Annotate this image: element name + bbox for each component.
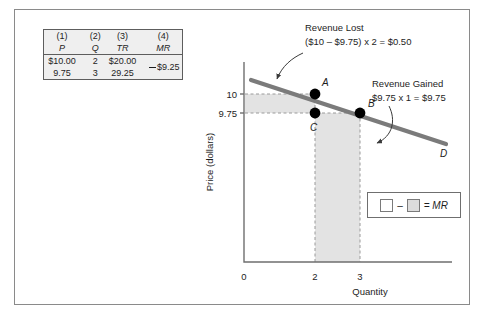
x-tick-label-2: 2 <box>312 271 317 282</box>
y-tick-label-10: 10 <box>226 89 237 100</box>
revenue-gained-title: Revenue Gained <box>372 78 443 89</box>
legend-operator: – <box>397 199 403 212</box>
x-tick-label-0: 0 <box>241 271 246 282</box>
revenue-lost-arrow-icon <box>277 53 303 79</box>
data-point-A <box>310 89 321 100</box>
figure-container: (1) (2) (3) (4) P Q TR MR $10.00 2 $20.0… <box>0 0 486 318</box>
revenue-lost-formula: ($10 – $9.75) x 2 = $0.50 <box>305 36 411 47</box>
data-point-C <box>310 108 321 119</box>
chart-legend: – = MR <box>367 192 461 218</box>
x-axis-title: Quantity <box>352 286 388 297</box>
data-point-B <box>355 108 366 119</box>
data-point-label-A: A <box>321 77 329 88</box>
y-axis-title: Price (dollars) <box>204 133 215 192</box>
chart-plot: D A B C 10 9.75 Price (dollars) 0 2 3 Qu… <box>0 0 486 318</box>
y-tick-label-975: 9.75 <box>219 108 238 119</box>
legend-swatch-revenue-gained <box>380 199 393 212</box>
revenue-lost-title: Revenue Lost <box>305 22 364 33</box>
revenue-gained-region <box>315 113 360 262</box>
x-tick-label-3: 3 <box>357 271 362 282</box>
data-point-label-C: C <box>310 122 318 133</box>
revenue-gained-formula: $9.75 x 1 = $9.75 <box>372 92 446 103</box>
legend-result-label: = MR <box>424 199 448 212</box>
demand-curve-label: D <box>440 148 447 159</box>
legend-swatch-revenue-lost <box>407 199 420 212</box>
